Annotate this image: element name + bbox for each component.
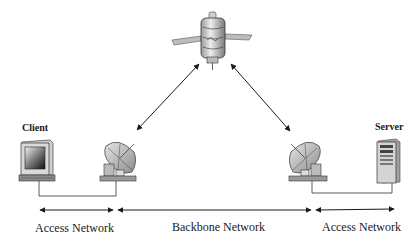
satellite-icon [172, 12, 252, 70]
uplink-arrow-left [137, 64, 199, 130]
server-tower-icon [377, 139, 400, 183]
uplink-arrow-right [231, 64, 290, 131]
client-label: Client [22, 122, 48, 133]
server-label: Server [375, 121, 403, 132]
network-diagram: Client Server Access Network Backbone Ne… [0, 0, 417, 245]
right-access-network-label: Access Network [322, 220, 401, 235]
left-access-network-label: Access Network [35, 221, 114, 236]
backbone-network-label: Backbone Network [172, 220, 265, 235]
satellite-dish-icon [289, 142, 327, 181]
right-access-span-arrow [316, 209, 394, 210]
desktop-computer-icon [19, 140, 55, 181]
client-to-dish-cable [39, 181, 116, 196]
satellite-dish-icon [100, 142, 136, 181]
diagram-graphics [0, 0, 417, 245]
